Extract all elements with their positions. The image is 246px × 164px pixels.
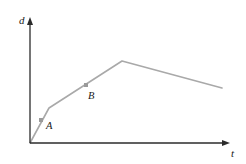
point-b-label: B [88, 90, 95, 101]
point-a-label: A [45, 120, 53, 131]
distance-time-graph: d t A B [0, 0, 246, 164]
figure-background [0, 0, 246, 164]
point-b-marker [84, 83, 88, 87]
point-a-marker [39, 118, 43, 122]
y-axis-label: d [19, 14, 25, 26]
